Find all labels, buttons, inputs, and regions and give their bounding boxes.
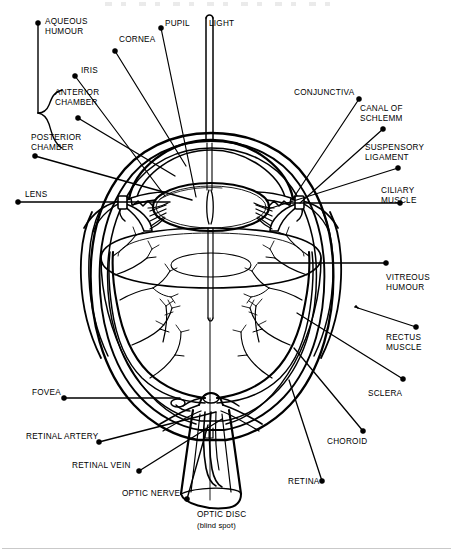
- eye-anatomy-diagram: AQUEOUS HUMOUR CORNEA PUPIL LIGHT IRIS A…: [0, 0, 453, 558]
- label-conjunctiva: CONJUNCTIVA: [294, 88, 354, 98]
- label-anterior-chamber: ANTERIOR CHAMBER: [55, 88, 99, 107]
- label-pupil: PUPIL: [165, 19, 190, 29]
- label-choroid: CHOROID: [327, 437, 367, 447]
- rectus-muscle: [81, 210, 341, 358]
- label-lens: LENS: [25, 190, 47, 200]
- label-retina: RETINA: [288, 477, 320, 487]
- vitreous-humour: [101, 228, 321, 424]
- label-suspensory-ligament: SUSPENSORY LIGAMENT: [365, 143, 424, 162]
- label-optic-disc-sublabel: (blind spot): [197, 521, 236, 531]
- label-ciliary-muscle: CILIARY MUSCLE: [381, 186, 417, 205]
- label-aqueous-humour: AQUEOUS HUMOUR: [45, 17, 88, 36]
- optic-nerve: [181, 398, 241, 508]
- label-rectus-muscle: RECTUS MUSCLE: [386, 333, 422, 352]
- label-cornea: CORNEA: [119, 35, 156, 45]
- page-rule-bottom: [2, 548, 451, 549]
- label-light: LIGHT: [209, 19, 234, 29]
- label-iris: IRIS: [81, 66, 98, 76]
- label-fovea: FOVEA: [32, 388, 61, 398]
- label-sclera: SCLERA: [368, 389, 402, 399]
- label-posterior-chamber: POSTERIOR CHAMBER: [31, 133, 81, 152]
- label-retinal-vein: RETINAL VEIN: [72, 461, 131, 471]
- label-optic-disc: OPTIC DISC: [197, 510, 246, 520]
- label-optic-nerve: OPTIC NERVE: [122, 489, 180, 499]
- label-vitreous-humour: VITREOUS HUMOUR: [386, 273, 430, 292]
- label-retinal-artery: RETINAL ARTERY: [26, 432, 99, 442]
- label-canal-of-schlemm: CANAL OF SCHLEMM: [360, 104, 403, 123]
